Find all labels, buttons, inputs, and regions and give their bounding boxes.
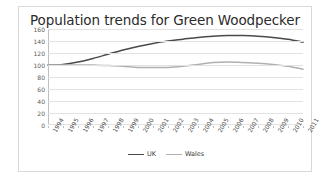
- legend-swatch-uk: [128, 154, 144, 155]
- x-axis-tick-mark: [303, 126, 304, 128]
- x-axis-tick-mark: [63, 126, 64, 128]
- x-axis-tick-mark: [93, 126, 94, 128]
- legend-label: Wales: [185, 150, 204, 158]
- x-axis-tick-mark: [153, 126, 154, 128]
- x-axis-tick-mark: [213, 126, 214, 128]
- legend-item-wales[interactable]: Wales: [166, 150, 204, 158]
- series-line-uk: [48, 36, 303, 65]
- gridline: [48, 53, 303, 54]
- chart-legend: UKWales: [19, 150, 313, 158]
- y-axis-tick-label: 40: [37, 98, 45, 105]
- gridline: [48, 101, 303, 102]
- gridline: [48, 29, 303, 30]
- y-axis-tick-label: 20: [37, 110, 45, 117]
- x-axis-tick-mark: [78, 126, 79, 128]
- y-axis-tick-label: 80: [37, 74, 45, 81]
- x-axis-tick-mark: [273, 126, 274, 128]
- plot-wrapper: 160140120100806040200 199419951996199719…: [19, 29, 313, 139]
- x-axis-tick-mark: [183, 126, 184, 128]
- x-axis-tick-mark: [48, 126, 49, 128]
- x-axis-tick-mark: [168, 126, 169, 128]
- plot-area: [48, 29, 303, 125]
- x-axis-tick-mark: [123, 126, 124, 128]
- y-axis-tick-label: 160: [34, 26, 45, 33]
- y-axis-tick-label: 60: [37, 86, 45, 93]
- legend-item-uk[interactable]: UK: [128, 150, 156, 158]
- y-axis: 160140120100806040200: [19, 29, 47, 125]
- y-axis-tick-label: 120: [34, 50, 45, 57]
- y-axis-tick-label: 140: [34, 38, 45, 45]
- y-axis-tick-label: 100: [34, 62, 45, 69]
- x-axis-tick-mark: [228, 126, 229, 128]
- legend-swatch-wales: [166, 154, 182, 155]
- x-axis-tick-mark: [288, 126, 289, 128]
- gridline: [48, 113, 303, 114]
- gridline: [48, 41, 303, 42]
- x-axis-tick-mark: [198, 126, 199, 128]
- chart-card: Population trends for Green Woodpecker 1…: [18, 6, 312, 172]
- x-axis-tick-mark: [243, 126, 244, 128]
- x-axis-tick-mark: [138, 126, 139, 128]
- gridline: [48, 77, 303, 78]
- x-axis-tick-mark: [258, 126, 259, 128]
- y-axis-tick-label: 0: [41, 122, 45, 129]
- x-axis-tick-mark: [108, 126, 109, 128]
- gridline: [48, 65, 303, 66]
- legend-label: UK: [147, 150, 156, 158]
- x-axis-tick-label: 2011: [306, 117, 320, 134]
- chart-title: Population trends for Green Woodpecker: [19, 12, 311, 28]
- gridline: [48, 89, 303, 90]
